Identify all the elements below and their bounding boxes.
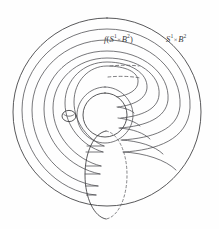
label-ambient-torus: S1×B2 xyxy=(166,35,186,44)
winding-strand-outer-1-inner xyxy=(22,29,190,195)
strand-stubs-right-of-bottom-disk xyxy=(117,107,176,170)
winding-strand-2 xyxy=(44,51,168,174)
winding-strand-3-inner xyxy=(74,66,138,146)
hidden-crossing-upper-right-1 xyxy=(110,65,139,66)
label-ambient-b-exponent: 2 xyxy=(184,33,187,39)
ambient-torus-outer-boundary xyxy=(13,18,201,206)
topology-figure: f(S1×B2) S1×B2 xyxy=(0,0,219,229)
label-image-torus: f(S1×B2) xyxy=(104,35,133,44)
label-image-close-paren: ) xyxy=(130,34,133,44)
small-meridian-disk xyxy=(62,110,76,121)
hidden-crossing-upper-right-2 xyxy=(108,76,140,78)
central-hole-outer-ring xyxy=(77,87,133,143)
central-hole-circle xyxy=(83,93,127,137)
